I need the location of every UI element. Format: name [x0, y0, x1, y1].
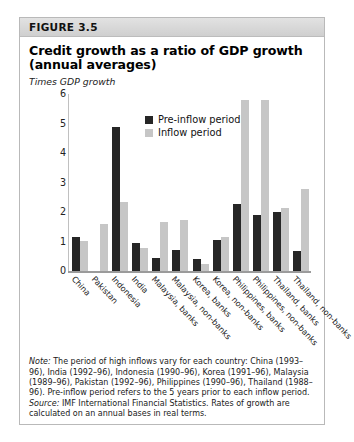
- title-zone: Credit growth as a ratio of GDP growth (…: [20, 37, 324, 87]
- figure-footnotes: Note: The period of high inflows vary fo…: [29, 357, 316, 419]
- bar: [172, 250, 180, 272]
- y-axis-tick-label: 0: [49, 265, 66, 276]
- bar-group: [251, 94, 271, 271]
- plot-region: 6543210 ChinaPakistanIndonesiaIndiaMalay…: [49, 92, 313, 269]
- note-line: Note: The period of high inflows vary fo…: [29, 357, 316, 397]
- y-axis-tick-label: 1: [49, 236, 66, 247]
- bar: [180, 220, 188, 272]
- legend-swatch-icon: [145, 116, 153, 124]
- y-axis-unit-label: Times GDP growth: [29, 76, 315, 87]
- bar: [293, 251, 301, 271]
- bar: [261, 100, 269, 271]
- x-axis-tick-label: China: [70, 274, 93, 298]
- bar: [253, 215, 261, 271]
- x-axis-labels: ChinaPakistanIndonesiaIndiaMalaysia, ban…: [70, 274, 311, 338]
- x-axis-line: [68, 271, 311, 273]
- bar-group: [271, 94, 291, 271]
- y-axis-tick-label: 5: [49, 118, 66, 129]
- bar: [112, 127, 120, 271]
- source-text: IMF International Financial Statistics. …: [29, 399, 290, 418]
- bar: [132, 243, 140, 272]
- bar: [72, 237, 80, 271]
- bar: [241, 100, 249, 271]
- note-lead: Note:: [29, 357, 51, 366]
- figure-title: Credit growth as a ratio of GDP growth (…: [29, 44, 315, 72]
- bar: [100, 224, 108, 272]
- bar: [273, 212, 281, 272]
- bar: [193, 259, 201, 271]
- bar: [160, 222, 168, 272]
- note-text: The period of high inflows vary for each…: [29, 357, 313, 396]
- legend-swatch-icon: [145, 129, 153, 137]
- bar: [140, 248, 148, 271]
- bar: [201, 264, 209, 271]
- bar: [233, 204, 241, 272]
- figure-number-label: FIGURE 3.5: [29, 21, 98, 33]
- source-lead: Source:: [29, 399, 59, 408]
- chart-legend: Pre-inflow period Inflow period: [145, 114, 241, 140]
- bar: [120, 202, 128, 271]
- y-axis-tick-label: 6: [49, 88, 66, 99]
- legend-item-inflow: Inflow period: [145, 127, 241, 138]
- figure-box: FIGURE 3.5 Credit growth as a ratio of G…: [19, 17, 325, 425]
- bar-group: [70, 94, 90, 271]
- legend-label: Inflow period: [158, 127, 222, 138]
- bar-group: [291, 94, 311, 271]
- y-axis-line: [68, 94, 69, 271]
- chart-area: 6543210 ChinaPakistanIndonesiaIndiaMalay…: [29, 90, 315, 338]
- bar: [221, 237, 229, 272]
- bar: [281, 208, 289, 271]
- figure-header: FIGURE 3.5: [20, 18, 324, 37]
- bar-group: [90, 94, 110, 271]
- bar: [213, 240, 221, 272]
- y-axis-tick-label: 3: [49, 177, 66, 188]
- bar-group: [110, 94, 130, 271]
- source-line: Source: IMF International Financial Stat…: [29, 399, 316, 419]
- bar: [80, 241, 88, 271]
- bar: [152, 258, 160, 271]
- y-axis-tick-label: 4: [49, 147, 66, 158]
- legend-item-pre-inflow: Pre-inflow period: [145, 114, 241, 125]
- legend-label: Pre-inflow period: [158, 114, 241, 125]
- y-axis-tick-label: 2: [49, 206, 66, 217]
- bar: [301, 189, 309, 271]
